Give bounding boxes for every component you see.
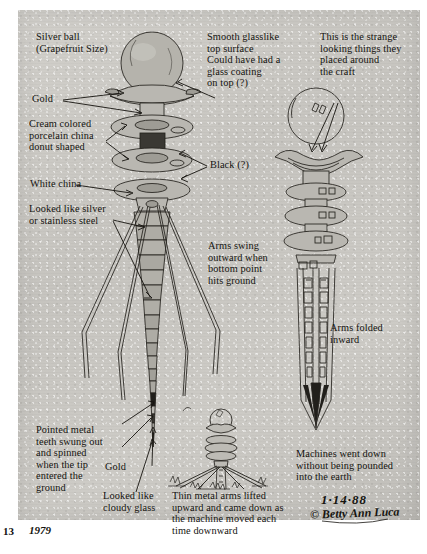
signature-underline <box>0 0 427 554</box>
year-note: 1979 <box>29 524 51 536</box>
scanned-page: Silver ball (Grapefruit Size) Gold Cream… <box>0 0 427 554</box>
page-number: 13 <box>3 525 14 537</box>
